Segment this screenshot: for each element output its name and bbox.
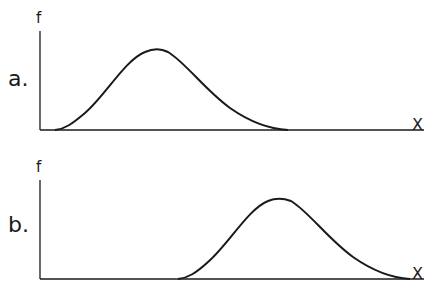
panel-label: a.	[8, 66, 28, 91]
distribution-curve	[55, 49, 288, 130]
panel-a: f a. X	[8, 9, 424, 134]
distribution-diagram: f a. X f b. X	[0, 0, 436, 298]
x-axis-label: X	[412, 115, 423, 134]
panel-label: b.	[8, 212, 29, 237]
y-axis-label: f	[36, 158, 42, 176]
y-axis-label: f	[36, 9, 42, 27]
distribution-curve	[178, 199, 410, 279]
panel-b: f b. X	[8, 158, 424, 283]
x-axis-label: X	[412, 264, 423, 283]
